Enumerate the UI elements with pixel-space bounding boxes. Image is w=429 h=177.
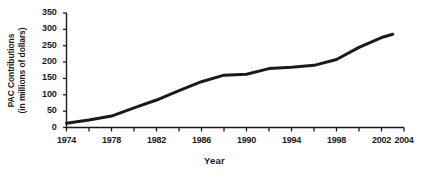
x-tick-label: 2004 — [387, 135, 421, 145]
data-series-line — [67, 34, 393, 123]
x-tick-label: 1978 — [95, 135, 129, 145]
y-tick-label: 150 — [33, 72, 57, 82]
x-axis-label: Year — [0, 155, 429, 166]
x-tick-label: 1986 — [185, 135, 219, 145]
y-tick-label: 250 — [33, 40, 57, 50]
x-tick-label: 1974 — [50, 135, 84, 145]
y-tick-label: 100 — [33, 89, 57, 99]
y-tick-label: 50 — [33, 105, 57, 115]
y-tick-label: 300 — [33, 23, 57, 33]
x-tick-label: 1982 — [140, 135, 174, 145]
x-tick-label: 1990 — [230, 135, 264, 145]
y-tick-label: 200 — [33, 56, 57, 66]
x-tick-label: 1994 — [275, 135, 309, 145]
pac-contributions-line-chart: PAC Contributions (in millions of dollar… — [0, 0, 429, 177]
y-tick-label: 350 — [33, 7, 57, 17]
x-tick-label: 1998 — [320, 135, 354, 145]
chart-plot-area — [0, 0, 429, 177]
y-tick-label: 0 — [33, 122, 57, 132]
